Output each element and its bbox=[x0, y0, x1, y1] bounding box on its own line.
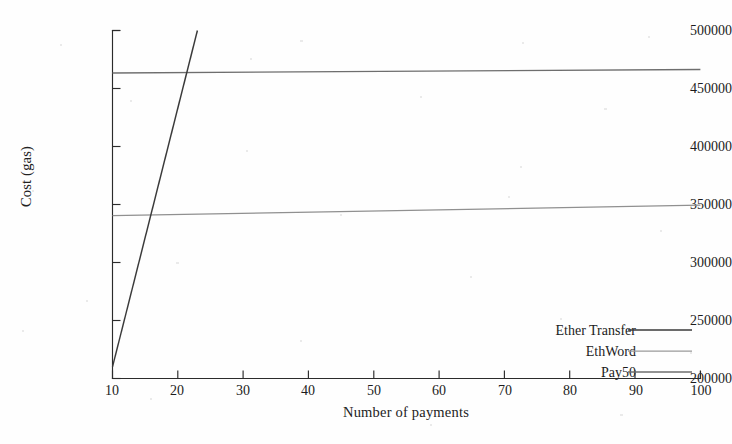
series-line-ethword bbox=[113, 205, 701, 216]
legend-sample-lines bbox=[628, 330, 692, 372]
y-tick-marks bbox=[113, 31, 121, 379]
chart-figure: Cost (gas) Number of payments 500000 450… bbox=[0, 0, 732, 444]
series-line-ether-transfer bbox=[113, 31, 198, 367]
plot-canvas bbox=[0, 0, 732, 444]
axis-spines bbox=[113, 31, 701, 379]
x-tick-marks bbox=[113, 371, 701, 379]
series-line-pay50 bbox=[113, 70, 701, 74]
